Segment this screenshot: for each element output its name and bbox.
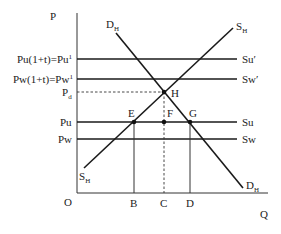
sw-label: Sw [242,133,256,145]
pu-label: Pu [60,116,72,128]
demand-label-top: DH [106,18,119,33]
point-e-label: E [128,107,135,119]
pu1-label: Pu(1+t)=Pu1 [17,53,73,66]
y-axis-label: P [50,10,56,22]
pd-label: Pd [62,86,72,101]
supply-label-bottom: SH [79,170,90,185]
su-prime-label: Su′ [242,53,256,65]
q-label-d: D [186,197,194,209]
supply-label-top: SH [236,20,247,35]
demand-label-bottom: DH [246,179,259,194]
point-h [162,90,167,95]
q-label-b: B [130,197,137,209]
x-axis-label: Q [260,208,268,220]
q-label-c: C [160,197,167,209]
point-f-label: F [167,107,173,119]
demand-curve [116,33,243,188]
pw1-label: Pw(1+t)=Pw1 [13,73,73,86]
origin-label: O [64,196,72,208]
point-f [162,120,167,125]
point-g [188,120,193,125]
pw-label: Pw [58,133,72,145]
point-e [132,120,137,125]
tariff-diagram: P Q O Pu(1+t)=Pu1 Pw(1+t)=Pw1 Pd Pu Pw S… [0,0,281,234]
supply-curve [84,28,233,168]
point-h-label: H [171,87,179,99]
point-g-label: G [189,107,197,119]
sw-prime-label: Sw′ [242,73,258,85]
su-label: Su [242,116,254,128]
